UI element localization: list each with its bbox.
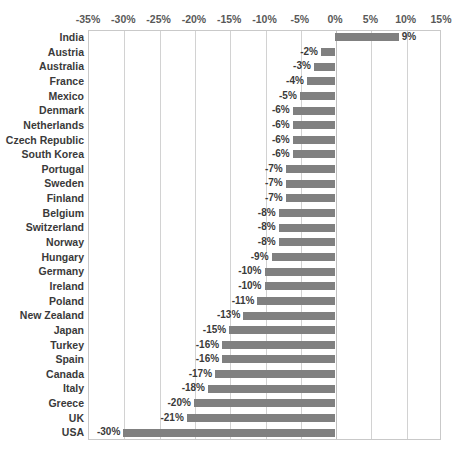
data-label: -7%	[259, 162, 283, 177]
data-label: 9%	[402, 30, 416, 45]
bar-row: Spain-16%	[0, 352, 473, 367]
bar-row: South Korea-6%	[0, 147, 473, 162]
bar	[123, 429, 335, 437]
bar-row: Switzerland-8%	[0, 220, 473, 235]
category-label: Canada	[46, 367, 88, 382]
data-label: -6%	[266, 103, 290, 118]
category-label: Greece	[48, 396, 88, 411]
category-label: Norway	[46, 235, 88, 250]
category-label: Czech Republic	[6, 133, 88, 148]
data-label: -8%	[252, 206, 276, 221]
data-label: -30%	[96, 425, 120, 440]
category-label: Austria	[48, 45, 88, 60]
bar	[257, 297, 335, 305]
bar	[215, 370, 335, 378]
bar-row: Canada-17%	[0, 367, 473, 382]
bar-row: Greece-20%	[0, 396, 473, 411]
bar	[243, 312, 335, 320]
bar	[279, 224, 335, 232]
data-label: -5%	[273, 89, 297, 104]
bar-row: Portugal-7%	[0, 162, 473, 177]
category-label: Hungary	[41, 250, 88, 265]
bar	[321, 48, 335, 56]
category-label: Italy	[63, 381, 88, 396]
category-label: France	[50, 74, 88, 89]
chart-container: -35%-30%-25%-20%-15%-10%-5%0%5%10%15% In…	[0, 0, 473, 455]
category-label: South Korea	[22, 147, 88, 162]
data-label: -7%	[259, 191, 283, 206]
bar-row: Sweden-7%	[0, 176, 473, 191]
category-label: Ireland	[50, 279, 88, 294]
category-label: Turkey	[50, 338, 88, 353]
category-label: Spain	[55, 352, 88, 367]
data-label: -18%	[181, 381, 205, 396]
category-label: New Zealand	[20, 308, 88, 323]
data-label: -13%	[216, 308, 240, 323]
category-label: USA	[62, 425, 88, 440]
bar-row: Poland-11%	[0, 294, 473, 309]
bar	[187, 414, 335, 422]
bar	[335, 33, 399, 41]
bar	[307, 77, 335, 85]
data-label: -20%	[167, 396, 191, 411]
bar-row: Czech Republic-6%	[0, 133, 473, 148]
category-label: Finland	[47, 191, 88, 206]
bar-row: India9%	[0, 30, 473, 45]
bar	[293, 136, 335, 144]
data-label: -11%	[230, 294, 254, 309]
bar-row: Finland-7%	[0, 191, 473, 206]
category-label: Germany	[38, 264, 88, 279]
bar	[300, 92, 335, 100]
data-label: -6%	[266, 147, 290, 162]
data-label: -3%	[287, 59, 311, 74]
data-label: -8%	[252, 235, 276, 250]
category-label: Switzerland	[26, 220, 88, 235]
category-label: Belgium	[43, 206, 88, 221]
bar	[229, 326, 335, 334]
bar-row: Mexico-5%	[0, 89, 473, 104]
bar-row: Denmark-6%	[0, 103, 473, 118]
bar	[286, 165, 335, 173]
data-label: -8%	[252, 220, 276, 235]
bar-row: Australia-3%	[0, 59, 473, 74]
data-label: -15%	[202, 323, 226, 338]
bar-row: Belgium-8%	[0, 206, 473, 221]
bar	[194, 399, 335, 407]
data-label: -2%	[294, 45, 318, 60]
data-label: -10%	[238, 264, 262, 279]
data-label: -9%	[245, 250, 269, 265]
category-label: UK	[69, 411, 88, 426]
bar	[222, 341, 335, 349]
bar-row: Netherlands-6%	[0, 118, 473, 133]
bar	[293, 121, 335, 129]
bar-rows: India9%Austria-2%Australia-3%France-4%Me…	[0, 0, 473, 455]
bar-row: UK-21%	[0, 411, 473, 426]
data-label: -7%	[259, 176, 283, 191]
data-label: -6%	[266, 118, 290, 133]
bar	[286, 194, 335, 202]
bar-row: Japan-15%	[0, 323, 473, 338]
bar	[265, 282, 336, 290]
bar-row: Austria-2%	[0, 45, 473, 60]
data-label: -4%	[280, 74, 304, 89]
bar-row: Hungary-9%	[0, 250, 473, 265]
bar	[265, 268, 336, 276]
bar	[272, 253, 336, 261]
bar-row: Ireland-10%	[0, 279, 473, 294]
data-label: -21%	[160, 411, 184, 426]
category-label: India	[59, 30, 88, 45]
data-label: -6%	[266, 133, 290, 148]
category-label: Japan	[54, 323, 88, 338]
bar-row: New Zealand-13%	[0, 308, 473, 323]
bar	[293, 107, 335, 115]
bar-row: Italy-18%	[0, 381, 473, 396]
bar	[279, 209, 335, 217]
data-label: -10%	[238, 279, 262, 294]
bar	[286, 180, 335, 188]
data-label: -17%	[188, 367, 212, 382]
category-label: Portugal	[41, 162, 88, 177]
category-label: Mexico	[48, 89, 88, 104]
bar	[293, 150, 335, 158]
bar-row: France-4%	[0, 74, 473, 89]
bar	[222, 355, 335, 363]
